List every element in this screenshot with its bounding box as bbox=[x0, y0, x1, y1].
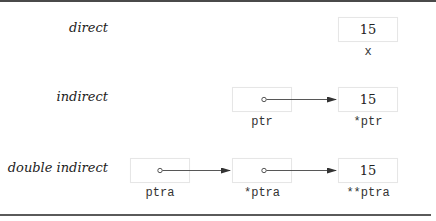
var-name-deref-ptr: *ptr bbox=[328, 115, 408, 129]
var-name-deref-ptra: *ptra bbox=[222, 186, 302, 200]
var-name-ptr: ptr bbox=[222, 115, 302, 129]
pointer-box-ptra bbox=[130, 158, 190, 183]
var-name-double-deref-ptra: **ptra bbox=[328, 186, 408, 200]
value-deref-ptr: 15 bbox=[339, 88, 397, 111]
pointer-box-deref-ptra bbox=[232, 158, 292, 183]
row-label-double-indirect: double indirect bbox=[8, 160, 108, 175]
value-box-double-deref-ptra: 15 bbox=[338, 158, 398, 183]
top-rule bbox=[0, 0, 436, 2]
value-ptr bbox=[233, 88, 291, 111]
value-double-deref-ptra: 15 bbox=[339, 159, 397, 182]
value-x: 15 bbox=[339, 18, 397, 41]
value-ptra bbox=[131, 159, 189, 182]
bottom-rule bbox=[0, 214, 431, 216]
row-label-indirect: indirect bbox=[57, 89, 108, 104]
value-box-deref-ptr: 15 bbox=[338, 87, 398, 112]
value-deref-ptra bbox=[233, 159, 291, 182]
row-label-direct: direct bbox=[69, 20, 108, 35]
var-name-x: x bbox=[328, 45, 408, 59]
var-name-ptra: ptra bbox=[120, 186, 200, 200]
value-box-x: 15 bbox=[338, 17, 398, 42]
pointer-box-ptr bbox=[232, 87, 292, 112]
